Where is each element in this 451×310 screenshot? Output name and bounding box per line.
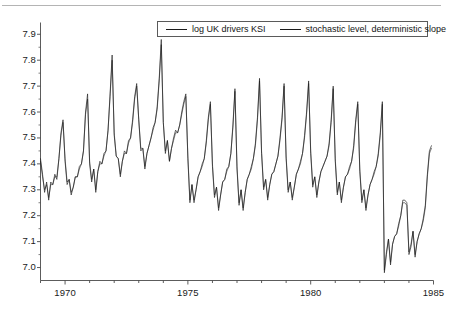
- y-tick-label: 7.3: [4, 183, 36, 194]
- x-tick-label: 1975: [168, 287, 208, 298]
- x-tick-label: 1985: [414, 287, 451, 298]
- legend-entry-1: stochastic level, deterministic slope: [266, 22, 447, 36]
- x-tick-label: 1970: [45, 287, 85, 298]
- y-tick-label: 7.8: [4, 54, 36, 65]
- y-tick-label: 7.5: [4, 131, 36, 142]
- y-tick-label: 7.6: [4, 106, 36, 117]
- y-tick-label: 7.0: [4, 261, 36, 272]
- y-tick-label: 7.9: [4, 28, 36, 39]
- y-tick-label: 7.1: [4, 235, 36, 246]
- legend-line-swatch-0: [166, 29, 187, 30]
- y-tick-label: 7.7: [4, 80, 36, 91]
- y-tick-label: 7.4: [4, 157, 36, 168]
- legend-label-0: log UK drivers KSI: [192, 24, 266, 34]
- chart-legend: log UK drivers KSI stochastic level, det…: [157, 21, 428, 37]
- legend-line-swatch-1: [280, 29, 301, 30]
- legend-label-1: stochastic level, deterministic slope: [306, 24, 447, 34]
- legend-entry-0: log UK drivers KSI: [158, 22, 266, 36]
- series-line-0: [41, 39, 432, 272]
- y-tick-label: 7.2: [4, 209, 36, 220]
- series-line-1: [41, 45, 432, 270]
- x-tick-label: 1980: [291, 287, 331, 298]
